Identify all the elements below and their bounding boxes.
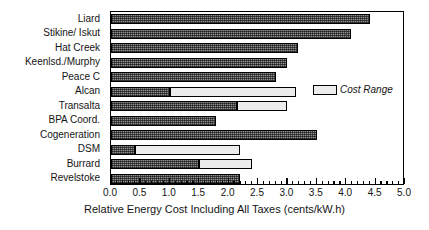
- category-label: DSM: [0, 143, 100, 154]
- x-tick-minor: [351, 181, 352, 184]
- bar-segment-base: [111, 159, 199, 169]
- x-tick-major: [286, 178, 287, 184]
- bar-segment-base: [111, 87, 170, 97]
- bar-segment-base: [111, 72, 276, 82]
- x-tick-major: [139, 178, 140, 184]
- bar-row: [111, 58, 405, 68]
- category-label: Burrard: [0, 158, 100, 169]
- legend: Cost Range: [313, 84, 393, 95]
- x-tick-minor: [145, 181, 146, 184]
- x-tick-minor: [281, 181, 282, 184]
- bar-segment-base: [111, 43, 298, 53]
- x-tick-minor: [398, 181, 399, 184]
- category-label: Hat Creek: [0, 42, 100, 53]
- bar-row: [111, 14, 405, 24]
- category-label: Keenlsd./Murphy: [0, 56, 100, 67]
- bar-segment-cost-range: [135, 145, 241, 155]
- x-tick-minor: [304, 181, 305, 184]
- x-tick-minor: [186, 181, 187, 184]
- x-tick-major: [169, 178, 170, 184]
- bar-segment-base: [111, 14, 370, 24]
- legend-swatch-cost-range: [313, 85, 337, 95]
- x-tick-minor: [328, 181, 329, 184]
- plot-frame: [110, 11, 404, 185]
- x-tick-minor: [163, 181, 164, 184]
- x-tick-minor: [157, 181, 158, 184]
- x-tick-major: [345, 178, 346, 184]
- x-tick-minor: [204, 181, 205, 184]
- bar-segment-base: [111, 145, 135, 155]
- x-tick-minor: [339, 181, 340, 184]
- bar-row: [111, 101, 405, 111]
- x-tick-minor: [216, 181, 217, 184]
- bar-segment-cost-range: [199, 159, 252, 169]
- bar-row: [111, 145, 405, 155]
- x-tick-major: [404, 178, 405, 184]
- x-tick-minor: [292, 181, 293, 184]
- x-tick-minor: [369, 181, 370, 184]
- x-tick-minor: [310, 181, 311, 184]
- bar-segment-base: [111, 29, 351, 39]
- x-tick-minor: [134, 181, 135, 184]
- category-label: Transalta: [0, 100, 100, 111]
- x-tick-minor: [210, 181, 211, 184]
- bar-segment-cost-range: [170, 87, 296, 97]
- bar-chart: LiardStikine/ IskutHat CreekKeenlsd./Mur…: [0, 0, 429, 230]
- bar-segment-base: [111, 101, 237, 111]
- x-tick-minor: [245, 181, 246, 184]
- x-tick-major: [316, 178, 317, 184]
- x-tick-minor: [251, 181, 252, 184]
- category-label: Stikine/ Iskut: [0, 27, 100, 38]
- category-label: Cogeneration: [0, 129, 100, 140]
- bar-row: [111, 29, 405, 39]
- x-tick-minor: [275, 181, 276, 184]
- x-tick-minor: [380, 181, 381, 184]
- x-tick-minor: [181, 181, 182, 184]
- x-tick-minor: [222, 181, 223, 184]
- bar-segment-base: [111, 58, 287, 68]
- x-tick-major: [198, 178, 199, 184]
- x-tick-minor: [175, 181, 176, 184]
- category-label: Liard: [0, 13, 100, 24]
- category-label: Alcan: [0, 85, 100, 96]
- category-label: BPA Coord.: [0, 114, 100, 125]
- x-tick-major: [110, 178, 111, 184]
- x-tick-minor: [151, 181, 152, 184]
- bar-row: [111, 72, 405, 82]
- x-tick-minor: [386, 181, 387, 184]
- x-tick-minor: [298, 181, 299, 184]
- x-tick-minor: [392, 181, 393, 184]
- bar-row: [111, 43, 405, 53]
- bar-segment-base: [111, 116, 216, 126]
- x-tick-minor: [128, 181, 129, 184]
- legend-label-cost-range: Cost Range: [340, 84, 393, 95]
- bar-segment-base: [111, 130, 317, 140]
- bar-row: [111, 159, 405, 169]
- x-tick-label: 5.0: [387, 187, 421, 198]
- bar-row: [111, 130, 405, 140]
- x-tick-minor: [333, 181, 334, 184]
- category-axis-labels: LiardStikine/ IskutHat CreekKeenlsd./Mur…: [0, 11, 104, 185]
- bar-segment-cost-range: [237, 101, 287, 111]
- x-tick-minor: [116, 181, 117, 184]
- x-tick-major: [228, 178, 229, 184]
- x-tick-minor: [322, 181, 323, 184]
- x-tick-minor: [239, 181, 240, 184]
- x-tick-minor: [263, 181, 264, 184]
- x-tick-major: [375, 178, 376, 184]
- x-axis-title: Relative Energy Cost Including All Taxes…: [0, 203, 429, 216]
- x-tick-major: [257, 178, 258, 184]
- category-label: Revelstoke: [0, 172, 100, 183]
- x-tick-minor: [192, 181, 193, 184]
- plot-area: [111, 12, 403, 184]
- category-label: Peace C: [0, 71, 100, 82]
- bar-row: [111, 116, 405, 126]
- x-tick-minor: [233, 181, 234, 184]
- x-tick-minor: [269, 181, 270, 184]
- x-tick-minor: [357, 181, 358, 184]
- x-tick-minor: [363, 181, 364, 184]
- x-tick-minor: [122, 181, 123, 184]
